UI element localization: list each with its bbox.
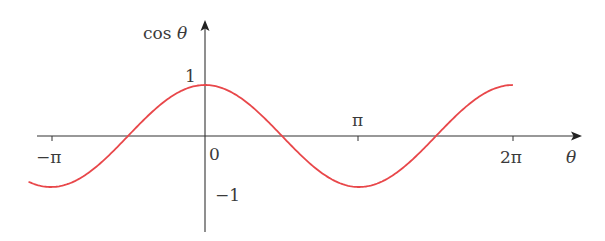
y-axis-label: cos θ <box>143 23 187 43</box>
tick-label-one: 1 <box>185 66 196 86</box>
tick-label-zero: 0 <box>209 144 220 164</box>
tick-label-neg-one: −1 <box>215 185 240 205</box>
tick-label-neg-pi: −π <box>36 147 61 167</box>
tick-label-pi: π <box>352 110 363 130</box>
cosine-chart: cos θ 1 −π 0 π 2π −1 θ <box>0 0 605 241</box>
chart-canvas: cos θ 1 −π 0 π 2π −1 θ <box>0 0 605 241</box>
tick-label-two-pi: 2π <box>500 147 522 167</box>
x-axis-label: θ <box>566 147 576 167</box>
